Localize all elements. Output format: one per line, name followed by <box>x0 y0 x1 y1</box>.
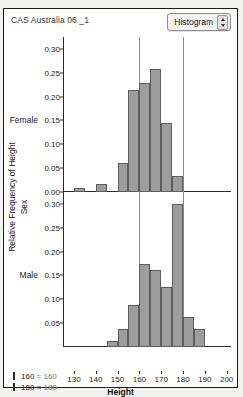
y-tick-label: 0.25 <box>44 68 60 77</box>
group-axis-title: Sex <box>18 187 30 227</box>
histogram-bar[interactable] <box>128 90 139 192</box>
window-header: CAS Australia 06 _1 Histogram <box>4 9 237 35</box>
y-tick-label: 0.30 <box>44 44 60 53</box>
histogram-bar[interactable] <box>118 329 129 347</box>
panel-female: 0.300.250.200.150.100.050.00Female <box>63 37 231 192</box>
page-title: CAS Australia 06 _1 <box>11 15 89 25</box>
panel-y-axis <box>63 37 64 192</box>
y-tick-label: 0.05 <box>44 164 60 173</box>
y-tick-label: 0.10 <box>44 140 60 149</box>
y-tick-label: 0.00 <box>44 188 60 197</box>
histogram-bar[interactable] <box>194 329 205 347</box>
histogram-bar[interactable] <box>172 176 183 192</box>
histogram-bar[interactable] <box>139 264 150 347</box>
slider-handle-icon[interactable] <box>13 383 15 391</box>
histogram-bar[interactable] <box>139 83 150 192</box>
y-tick-label: 0.30 <box>44 199 60 208</box>
histogram-bar[interactable] <box>128 305 139 347</box>
panel-y-axis <box>63 192 64 347</box>
slider-legend-label: 160 = 160 <box>21 372 57 381</box>
histogram-bar[interactable] <box>96 184 107 192</box>
y-tick-mark <box>60 251 63 252</box>
y-tick-label: 0.15 <box>44 271 60 280</box>
histogram-bar[interactable] <box>150 69 161 192</box>
panels-container: 0.300.250.200.150.100.050.00Female 0.300… <box>63 37 231 349</box>
y-tick-mark <box>60 227 63 228</box>
y-tick-label: 0.10 <box>44 295 60 304</box>
plot-type-label: Histogram <box>174 17 213 27</box>
histogram-window: CAS Australia 06 _1 Histogram Relative F… <box>3 8 238 388</box>
reference-line-180[interactable] <box>183 37 184 192</box>
slider-legend-item[interactable]: 180 = 180 <box>13 382 237 392</box>
y-tick-mark <box>60 144 63 145</box>
histogram-bar[interactable] <box>161 123 172 192</box>
y-tick-mark <box>60 96 63 97</box>
histogram-bar[interactable] <box>118 163 129 192</box>
y-tick-label: 0.15 <box>44 116 60 125</box>
group-label-male: Male <box>20 270 38 280</box>
y-tick-mark <box>60 48 63 49</box>
stepper-updown-icon[interactable] <box>217 15 228 30</box>
y-tick-label: 0.25 <box>44 223 60 232</box>
histogram-bar[interactable] <box>172 204 183 347</box>
y-tick-mark <box>60 275 63 276</box>
y-tick-mark <box>60 323 63 324</box>
y-tick-mark <box>60 72 63 73</box>
group-label-female: Female <box>10 115 38 125</box>
y-tick-mark <box>60 299 63 300</box>
y-axis-title: Relative Frequency of Height <box>6 107 18 287</box>
y-tick-mark <box>60 168 63 169</box>
histogram-bar[interactable] <box>183 317 194 347</box>
y-tick-label: 0.05 <box>44 319 60 328</box>
histogram-bar[interactable] <box>161 287 172 347</box>
histogram-bar[interactable] <box>150 270 161 347</box>
slider-legend: 160 = 160180 = 180 <box>4 371 237 393</box>
histogram-bar[interactable] <box>107 341 118 347</box>
slider-handle-icon[interactable] <box>13 372 15 380</box>
plot-type-menu-button[interactable]: Histogram <box>167 13 231 31</box>
slider-legend-label: 180 = 180 <box>21 383 57 392</box>
slider-legend-item[interactable]: 160 = 160 <box>13 371 237 381</box>
y-tick-label: 0.20 <box>44 92 60 101</box>
y-tick-mark <box>60 120 63 121</box>
panel-male: 0.300.250.200.150.100.05Male <box>63 192 231 347</box>
y-tick-label: 0.20 <box>44 247 60 256</box>
y-tick-mark <box>60 203 63 204</box>
plot-area: Relative Frequency of Height Sex 0.300.2… <box>4 35 237 361</box>
